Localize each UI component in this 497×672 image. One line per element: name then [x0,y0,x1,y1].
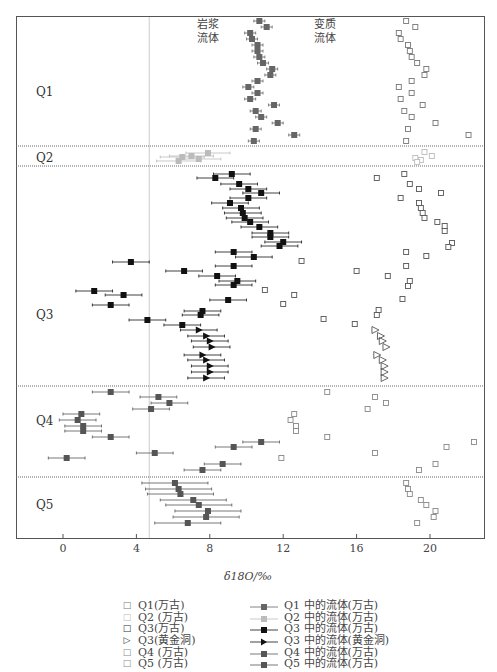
x-tick-label: 12 [276,542,290,555]
square-open-icon: □ [120,658,134,670]
errorbar-square-icon [250,602,278,610]
x-tick-label: 4 [133,542,140,555]
square-open-icon: □ [120,647,134,659]
legend-item: Q3 中的流体(黄金洞) [250,635,389,647]
chart-plot: Q1Q2Q3Q4Q5 岩浆流体变质流体 048121620 δ18O/‰ [0,0,497,600]
legend-item: Q5 中的流体(万古) [250,658,389,670]
x-tick-label: 16 [350,542,364,555]
x-tick-label: 8 [206,542,213,555]
errorbar-square-icon [250,614,278,622]
group-label-q1: Q1 [36,85,53,99]
legend-label: Q1 中的流体(万古) [284,600,378,612]
legend-item: Q1 中的流体(万古) [250,600,389,612]
x-axis-label: δ18O/‰ [224,570,272,583]
legend-item: □Q5 (万古) [120,658,196,670]
errorbar-square-icon [250,649,278,657]
triangle-open-icon: ▷ [120,635,134,647]
annotation-1: 变质 [314,17,336,31]
square-open-icon: □ [120,612,134,624]
annotation-0: 岩浆 [197,17,219,31]
errorbar-triangle-icon [250,637,278,645]
annotations: 岩浆流体变质流体 [197,17,336,45]
legend-item: □Q1(万古) [120,600,196,612]
legend-left: □Q1(万古)□Q2 (万古)□Q3(万古)▷Q3(黄金洞)□Q4 (万古)□Q… [120,600,196,670]
data-points [48,18,476,526]
group-labels: Q1Q2Q3Q4Q5 [36,85,54,512]
svg-text:流体: 流体 [314,31,336,45]
svg-text:流体: 流体 [197,31,219,45]
legend-label: Q5 中的流体(万古) [284,658,378,670]
errorbar-square-icon [250,625,278,633]
group-label-q2: Q2 [36,151,53,165]
legend-item: ▷Q3(黄金洞) [120,635,196,647]
x-tick-label: 20 [423,542,437,555]
legend-right: Q1 中的流体(万古)Q2 中的流体(万古)Q3 中的流体(万古)Q3 中的流体… [250,600,389,670]
x-tick-label: 0 [60,542,67,555]
legend-label: Q1(万古) [138,600,185,612]
legend-label: Q5 (万古) [138,658,188,670]
square-open-icon: □ [120,600,134,612]
x-axis: 048121620 [60,534,438,555]
errorbar-square-icon [250,660,278,668]
square-open-icon: □ [120,623,134,635]
group-label-q4: Q4 [36,414,54,428]
legend-label: Q3 中的流体(黄金洞) [284,635,389,647]
group-label-q5: Q5 [36,498,53,512]
group-label-q3: Q3 [36,308,53,322]
legend-label: Q3(黄金洞) [138,635,196,647]
